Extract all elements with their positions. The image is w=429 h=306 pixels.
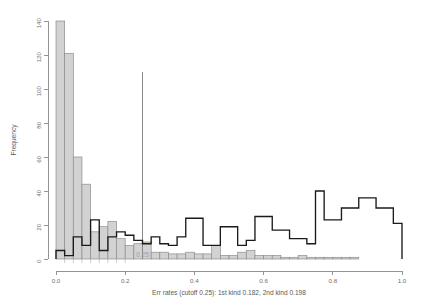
grey-histogram-bar [117, 239, 126, 259]
y-tick-label: 20 [35, 223, 42, 230]
y-tick-label: 60 [35, 155, 42, 162]
grey-histogram-bar [281, 257, 290, 259]
x-tick-label: 0.6 [259, 277, 268, 284]
grey-histogram-bar [324, 257, 333, 259]
y-tick-label: 0 [35, 259, 42, 263]
grey-histogram-bar [333, 257, 342, 259]
y-axis: 020406080100120140Frequency [10, 17, 48, 262]
grey-histogram-bar [168, 254, 177, 259]
grey-histogram-bar [99, 227, 108, 259]
x-tick-label: 0.2 [121, 277, 130, 284]
grey-histogram-bar [160, 252, 169, 259]
grey-histogram-bar [56, 21, 65, 259]
grey-histogram-bar [203, 254, 212, 259]
grey-histogram-bar [108, 222, 117, 259]
grey-histogram-bar [125, 245, 134, 259]
x-axis: 0.00.20.40.60.81.0Err rates (cutoff 0.25… [52, 271, 407, 297]
y-tick-label: 80 [35, 121, 42, 128]
grey-histogram-bar [341, 257, 350, 259]
grey-histogram-bar [264, 256, 273, 259]
grey-histogram-bar [177, 254, 186, 259]
y-tick-label: 40 [35, 189, 42, 196]
grey-histogram-series [56, 21, 359, 259]
grey-histogram-bar [290, 257, 299, 259]
y-tick-label: 140 [35, 17, 42, 28]
grey-histogram-bar [220, 256, 229, 259]
x-tick-label: 0.4 [190, 277, 199, 284]
bin-edge-marks [65, 259, 126, 263]
grey-histogram-bar [246, 251, 255, 260]
y-tick-label: 100 [35, 85, 42, 96]
grey-histogram-bar [151, 252, 160, 259]
y-axis-title: Frequency [10, 124, 18, 156]
grey-histogram-bar [65, 53, 74, 259]
grey-histogram-bar [350, 257, 359, 259]
grey-histogram-bar [82, 184, 91, 259]
y-tick-label: 120 [35, 51, 42, 62]
histogram-svg: 020406080100120140Frequency0.00.20.40.60… [0, 0, 429, 306]
x-tick-label: 0.8 [328, 277, 337, 284]
histogram-plot: 020406080100120140Frequency0.00.20.40.60… [0, 0, 429, 306]
grey-histogram-bar [272, 256, 281, 259]
grey-histogram-bar [186, 252, 195, 259]
x-tick-label: 0.0 [52, 277, 61, 284]
grey-histogram-bar [194, 254, 203, 259]
grey-histogram-bar [91, 232, 100, 259]
grey-histogram-bar [255, 256, 264, 259]
grey-histogram-bar [212, 245, 221, 259]
grey-histogram-bar [316, 257, 325, 259]
grey-histogram-bar [298, 256, 307, 259]
grey-histogram-bar [238, 252, 247, 259]
grey-histogram-bar [229, 256, 238, 259]
x-tick-label: 1.0 [398, 277, 407, 284]
cutoff-label: 0.25 [136, 251, 149, 258]
x-axis-caption: Err rates (cutoff 0.25): 1st kind 0.182,… [152, 289, 306, 297]
grey-histogram-bar [73, 157, 82, 259]
grey-histogram-bar [307, 257, 316, 259]
